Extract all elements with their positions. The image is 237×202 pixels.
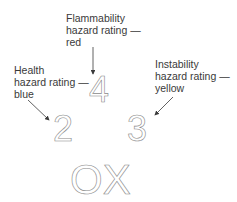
special-hazard-value: OX	[70, 159, 131, 201]
health-value: 2	[53, 111, 73, 147]
health-arrow-icon	[28, 100, 49, 120]
instability-value: 3	[127, 111, 147, 147]
instability-arrow-icon	[155, 97, 173, 115]
flammability-value: 4	[89, 72, 109, 108]
